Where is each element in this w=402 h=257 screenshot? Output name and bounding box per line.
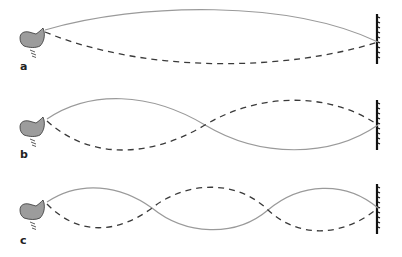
dashed-wave-c	[47, 187, 378, 231]
hand-icon	[20, 117, 44, 147]
standing-wave-diagram	[0, 0, 402, 257]
dashed-wave-b	[47, 100, 378, 150]
solid-wave-b	[47, 99, 378, 150]
panel-label-a: a	[20, 60, 27, 73]
solid-wave-c	[47, 188, 378, 230]
hand-icon	[20, 28, 44, 58]
panel-b	[20, 99, 380, 150]
wall-icon	[377, 14, 380, 64]
panel-label-b: b	[20, 148, 28, 161]
solid-wave-a	[45, 10, 378, 42]
wall-icon	[377, 184, 380, 234]
hand-icon	[20, 200, 44, 230]
panel-a	[20, 10, 380, 64]
panel-label-c: c	[20, 234, 27, 247]
panel-c	[20, 184, 380, 234]
dashed-wave-a	[45, 32, 378, 64]
